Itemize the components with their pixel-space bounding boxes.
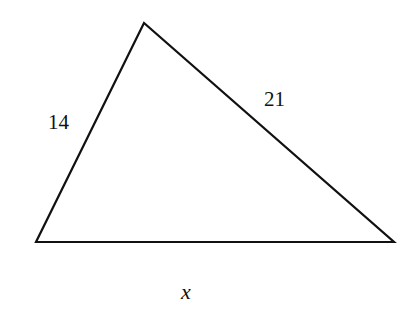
side-label-left: 14 <box>48 112 69 133</box>
triangle-figure <box>0 0 417 310</box>
side-label-right: 21 <box>264 89 285 110</box>
triangle-diagram: 14 21 x <box>0 0 417 310</box>
triangle-shape <box>36 23 394 242</box>
side-label-bottom: x <box>181 281 191 303</box>
